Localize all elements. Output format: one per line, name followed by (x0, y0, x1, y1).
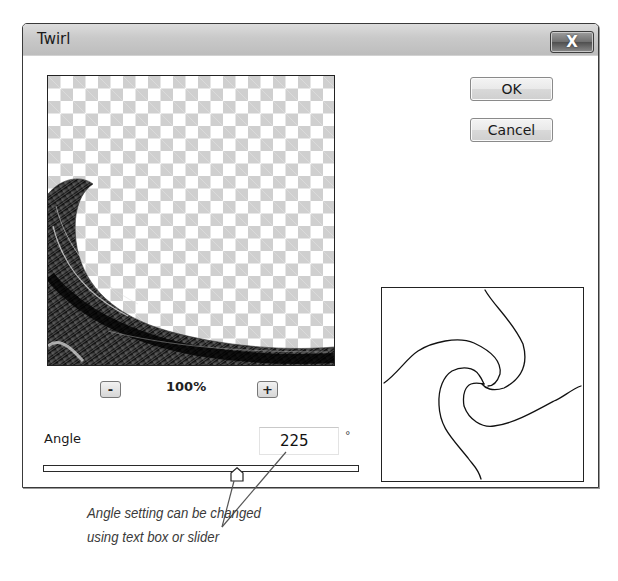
angle-label: Angle (44, 431, 81, 446)
close-button[interactable]: X (550, 31, 594, 53)
angle-input[interactable] (259, 427, 339, 455)
twirl-dialog: Twirl X OK Cancel (22, 23, 599, 488)
plus-icon: + (262, 383, 273, 396)
title-bar[interactable]: Twirl X (23, 24, 598, 56)
minus-icon: - (108, 383, 113, 396)
swirl-icon (382, 288, 583, 481)
annotation-caption: Angle setting can be changed using text … (87, 501, 261, 549)
twirl-preview-image (48, 76, 334, 365)
zoom-in-button[interactable]: + (257, 381, 278, 398)
degree-symbol: ° (345, 429, 351, 442)
zoom-level: 100% (166, 379, 206, 394)
annotation-line-2: using text box or slider (87, 525, 261, 549)
annotation-line-1: Angle setting can be changed (87, 501, 261, 525)
ok-button[interactable]: OK (470, 77, 553, 101)
filter-preview[interactable] (47, 75, 335, 366)
angle-slider-thumb[interactable] (230, 467, 244, 482)
dialog-title: Twirl (37, 30, 70, 48)
angle-slider[interactable] (43, 465, 359, 472)
close-icon: X (566, 35, 578, 50)
cancel-button[interactable]: Cancel (470, 118, 553, 142)
twirl-diagram (381, 287, 584, 482)
zoom-out-button[interactable]: - (100, 381, 121, 398)
